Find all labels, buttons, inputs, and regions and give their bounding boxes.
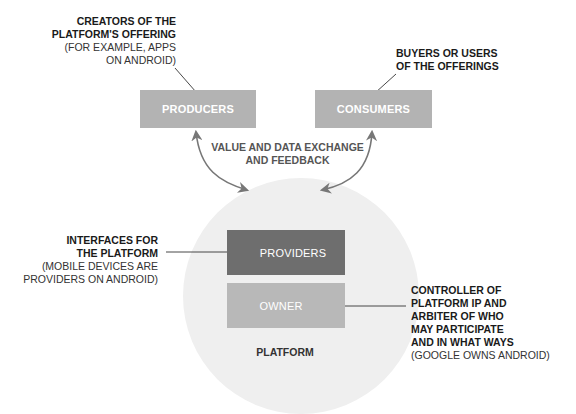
producers-annotation: CREATORS OF THE PLATFORM'S OFFERING (FOR… bbox=[30, 15, 176, 67]
providers-box: PROVIDERS bbox=[227, 230, 345, 275]
providers-label: PROVIDERS bbox=[246, 247, 327, 259]
consumers-box: CONSUMERS bbox=[315, 90, 432, 128]
owner-label: OWNER bbox=[259, 300, 312, 312]
exchange-label-line2: AND FEEDBACK bbox=[205, 154, 370, 167]
consumers-label: CONSUMERS bbox=[337, 103, 410, 115]
producers-box: PRODUCERS bbox=[140, 90, 256, 128]
owner-box: OWNER bbox=[227, 283, 345, 328]
producers-label: PRODUCERS bbox=[162, 103, 234, 115]
exchange-label-line1: VALUE AND DATA EXCHANGE bbox=[205, 141, 370, 154]
exchange-label: VALUE AND DATA EXCHANGE AND FEEDBACK bbox=[205, 141, 370, 167]
providers-annotation: INTERFACES FOR THE PLATFORM (MOBILE DEVI… bbox=[10, 234, 158, 286]
consumers-annotation: BUYERS OR USERS OF THE OFFERINGS bbox=[396, 47, 546, 73]
platform-label: PLATFORM bbox=[250, 346, 320, 359]
owner-annotation: CONTROLLER OF PLATFORM IP AND ARBITER OF… bbox=[411, 284, 571, 362]
